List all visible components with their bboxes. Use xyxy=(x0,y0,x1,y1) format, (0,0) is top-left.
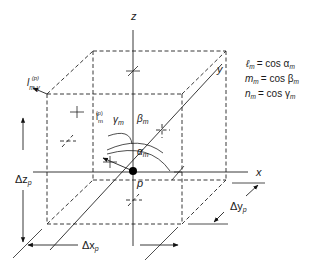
point-p-label: p xyxy=(136,177,143,189)
z-axis-label: z xyxy=(130,10,137,22)
dz-label: Δzp xyxy=(15,173,32,187)
face-vector-label: lm,γ(p) xyxy=(27,75,40,92)
point-p xyxy=(129,167,137,175)
direction-cosine-equations: ℓm= cos αm mm= cos βm nm= cos γm xyxy=(245,58,299,100)
equation-l: ℓm= cos αm xyxy=(245,58,295,70)
y-axis-label: y xyxy=(216,63,224,75)
coordinate-axes xyxy=(33,30,248,250)
y-axis xyxy=(50,64,222,250)
alpha-label: αm xyxy=(137,146,149,158)
beta-label: βm xyxy=(136,113,149,125)
control-volume-cube xyxy=(47,51,226,224)
dimension-arrows xyxy=(13,118,265,260)
gamma-arc xyxy=(108,133,132,144)
equation-n: nm= cos γm xyxy=(245,88,296,100)
unit-vector-label: lm(p) xyxy=(96,110,103,124)
diagram-canvas: z x y p lm,γ(p) lm(p) γm βm αm Δzp Δxp Δ… xyxy=(0,0,309,269)
dx-label: Δxp xyxy=(82,239,99,253)
x-axis-label: x xyxy=(255,166,262,178)
face-markers xyxy=(60,66,184,206)
direction-cosines-diagram: z x y p lm,γ(p) lm(p) γm βm αm Δzp Δxp Δ… xyxy=(0,0,309,269)
dy-label: Δyp xyxy=(230,200,247,214)
gamma-label: γm xyxy=(113,114,124,126)
beta-arc xyxy=(107,143,163,153)
equation-m: mm= cos βm xyxy=(245,73,299,85)
